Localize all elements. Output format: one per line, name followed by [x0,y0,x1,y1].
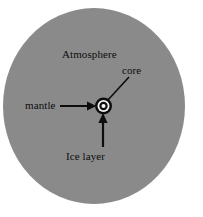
core-dot [102,104,106,108]
core-assembly [95,98,112,115]
core-label: core [122,64,141,76]
ice-layer-label: Ice layer [66,150,105,162]
planet-structure-diagram: Atmosphere core mantle Ice layer [0,0,203,217]
atmosphere-label: Atmosphere [62,48,117,60]
mantle-label: mantle [25,99,56,111]
